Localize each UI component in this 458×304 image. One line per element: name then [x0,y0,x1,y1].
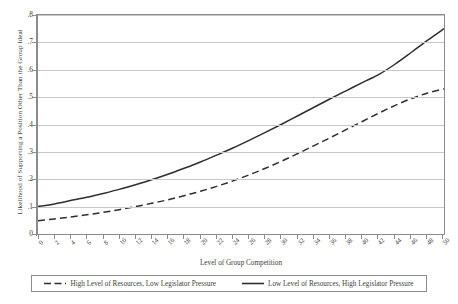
y-axis-tick-labels: 0.1.2.3.4.5.6.7.8 [10,0,33,304]
y-tick-label: .5 [11,93,33,100]
chart-figure: Likelihood of Supporting a Position Othe… [0,0,458,304]
y-tick-mark [32,42,36,43]
y-tick-mark [32,152,36,153]
y-tick-mark [32,125,36,126]
y-tick-label: .8 [11,11,33,18]
gridline [38,207,444,208]
y-tick-mark [32,15,36,16]
y-tick-label: .3 [11,148,33,155]
series-line-high-resources [38,89,444,221]
gridline [38,125,444,126]
y-tick-label: .2 [11,175,33,182]
gridline [38,42,444,43]
legend-swatch-solid-icon [242,280,264,287]
gridline [38,97,444,98]
chart-legend: High Level of Resources, Low Legislator … [31,275,427,292]
legend-item-high-resources: High Level of Resources, Low Legislator … [44,280,216,288]
y-tick-mark [32,207,36,208]
y-tick-label: .7 [11,38,33,45]
legend-label: Low Level of Resources, High Legislator … [268,280,414,288]
x-axis-title: Level of Group Competition [37,259,445,267]
y-tick-mark [32,234,36,235]
y-tick-mark [32,97,36,98]
y-tick-label: 0 [11,230,33,237]
legend-swatch-dashed-icon [44,280,66,287]
gridline [38,70,444,71]
y-tick-label: .1 [11,203,33,210]
legend-label: High Level of Resources, Low Legislator … [70,280,216,288]
y-tick-mark [32,179,36,180]
x-tick-label: 50 [441,236,451,246]
y-tick-mark [32,70,36,71]
y-tick-label: .4 [11,121,33,128]
legend-item-low-resources: Low Level of Resources, High Legislator … [242,280,414,288]
y-tick-label: .6 [11,66,33,73]
plot-area [37,14,445,235]
gridline [38,152,444,153]
gridline [38,15,444,16]
gridline [38,179,444,180]
